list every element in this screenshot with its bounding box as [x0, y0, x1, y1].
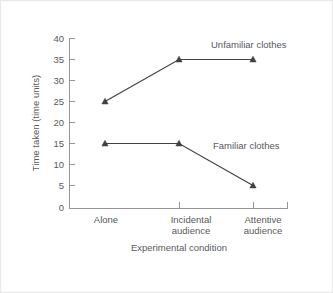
figure-frame: 40 35 30 25 20 15 10 5 0	[0, 0, 333, 293]
y-axis-title: Time taken (time units)	[30, 75, 41, 171]
y-tick-label-25: 25	[53, 96, 64, 107]
y-tick-label-5: 5	[59, 180, 64, 191]
series-line-unfamiliar-clothes	[105, 60, 253, 102]
y-tick-label-35: 35	[53, 54, 64, 65]
y-tick-label-40: 40	[53, 33, 64, 44]
y-tick-label-30: 30	[53, 75, 64, 86]
series-marker-unfamiliar-alone	[102, 98, 108, 104]
x-tick-label-attentive-line1: Attentive	[245, 214, 282, 225]
x-axis-title: Experimental condition	[131, 242, 227, 253]
x-tick-label-attentive-line2: audience	[244, 225, 283, 236]
y-tick-label-20: 20	[53, 117, 64, 128]
y-tick-label-10: 10	[53, 159, 64, 170]
series-marker-familiar-attentive	[250, 182, 256, 188]
x-tick-label-incidental-line2: audience	[172, 225, 211, 236]
line-chart: 40 35 30 25 20 15 10 5 0	[1, 1, 333, 293]
x-tick-label-alone-line1: Alone	[94, 214, 118, 225]
series-label-familiar-clothes: Familiar clothes	[213, 140, 280, 151]
y-tick-label-15: 15	[53, 138, 64, 149]
x-tick-label-incidental-line1: Incidental	[171, 214, 212, 225]
series-label-unfamiliar-clothes: Unfamiliar clothes	[211, 39, 287, 50]
y-tick-label-0: 0	[59, 202, 64, 213]
